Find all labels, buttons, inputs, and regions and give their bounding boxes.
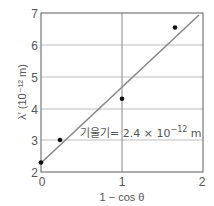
svg-text:5: 5 bbox=[31, 71, 38, 85]
gridlines bbox=[41, 13, 203, 172]
svg-text:4: 4 bbox=[31, 103, 38, 117]
slope-annotation: 기울기= 2.4 × 10−12 m bbox=[80, 125, 202, 140]
svg-text:0: 0 bbox=[39, 175, 46, 189]
x-axis-label: 1 − cos θ bbox=[100, 191, 145, 203]
svg-text:7: 7 bbox=[31, 7, 38, 21]
svg-text:1: 1 bbox=[119, 175, 126, 189]
svg-text:2: 2 bbox=[199, 175, 206, 189]
svg-text:6: 6 bbox=[31, 39, 38, 53]
y-tick-labels: 2 3 4 5 6 7 bbox=[31, 7, 38, 180]
data-points bbox=[39, 25, 178, 165]
y-axis-label: λ′ (10⁻¹² m) bbox=[16, 64, 28, 120]
chart: 2 3 4 5 6 7 0 1 2 1 − cos θ λ′ (10⁻¹² m)… bbox=[0, 0, 214, 206]
svg-text:2: 2 bbox=[31, 166, 38, 180]
svg-text:3: 3 bbox=[31, 134, 38, 148]
x-tick-labels: 0 1 2 bbox=[39, 175, 206, 189]
fit-line bbox=[41, 15, 199, 163]
